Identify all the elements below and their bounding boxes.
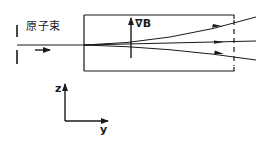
beam-path-up (84, 17, 256, 45)
coordinate-axes (65, 84, 108, 121)
beam-path-center (84, 41, 256, 45)
gradient-b-label: ∇B (135, 18, 151, 29)
beam-paths (84, 17, 256, 60)
beam-path-down (84, 45, 256, 60)
y-axis-label: y (100, 124, 107, 135)
z-axis-label: z (55, 83, 61, 94)
atom-beam-label: 原子束 (26, 21, 61, 32)
